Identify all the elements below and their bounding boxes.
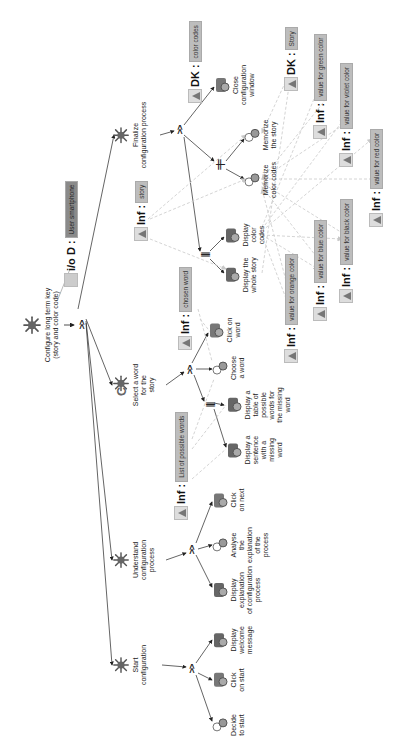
information-icon — [339, 289, 353, 303]
interactive-output-task-icon — [226, 396, 242, 414]
interactive-input-task-icon — [212, 491, 228, 509]
task-display-welcome[interactable]: Display welcome message — [212, 626, 254, 654]
root-operator-enable: >> — [77, 321, 87, 330]
operator-concurrent: ||| — [205, 403, 215, 408]
device-user-smartphone[interactable]: i/o D : User smartphone — [64, 181, 78, 287]
task-memorize-color-codes[interactable]: Memorize color codes — [244, 162, 278, 198]
task-model-diagram: Configure long term key (story and color… — [0, 0, 402, 739]
cognitive-decision-task-icon — [212, 361, 228, 375]
task-click-on-start[interactable]: Click on start — [212, 668, 246, 691]
task-display-color-codes[interactable]: Display color codes — [224, 224, 266, 247]
information-icon — [174, 506, 188, 520]
cognitive-task-icon — [212, 718, 228, 732]
info-value-orange-color[interactable]: Inf : value for orange color — [284, 254, 298, 363]
cognitive-memorize-task-icon — [244, 173, 260, 187]
abstract-task-icon — [112, 551, 130, 569]
interactive-input-task-icon — [214, 76, 230, 94]
root-task-label: Configure long term key (story and color… — [44, 288, 60, 362]
operator-enable: >> — [185, 366, 195, 375]
info-value-blue-color[interactable]: Inf : value for blue color — [313, 220, 327, 321]
information-icon — [178, 336, 192, 350]
task-decide-to-start[interactable]: Decide to start — [212, 714, 246, 736]
abstract-task-icon — [112, 656, 130, 674]
task-click-on-next[interactable]: Click on next — [212, 489, 246, 512]
task-display-whole-story[interactable]: Display the whole story — [224, 257, 258, 292]
task-finalize-configuration[interactable]: Finalize configuration process — [112, 102, 148, 169]
declarative-knowledge-story[interactable]: DK : Story — [284, 27, 298, 91]
info-value-black-color[interactable]: Inf : value for black color — [339, 199, 353, 303]
abstract-task-icon — [22, 315, 42, 335]
information-icon — [134, 227, 148, 241]
task-display-sentence[interactable]: Display a sentence with a missing word — [226, 436, 284, 465]
interactive-input-task-icon — [208, 321, 224, 339]
info-story[interactable]: Inf : story — [134, 181, 148, 241]
information-icon — [313, 125, 327, 139]
info-chosen-word[interactable]: Inf : chosen word — [178, 267, 192, 350]
task-display-table[interactable]: Display a table of possible words for th… — [226, 387, 292, 422]
interactive-output-task-icon — [212, 581, 228, 599]
operator-concurrent: ||| — [200, 253, 210, 258]
abstract-task-icon — [112, 126, 130, 144]
information-icon — [369, 213, 383, 227]
task-close-configuration-window[interactable]: Close configuration window — [214, 65, 256, 105]
task-understand-configuration[interactable]: Understand configuration process — [112, 540, 156, 580]
cognitive-memorize-task-icon — [244, 128, 260, 142]
svg-text:C: C — [115, 387, 129, 396]
operator-order-independence: =|= — [215, 160, 225, 170]
interactive-output-task-icon — [224, 226, 240, 244]
information-icon — [339, 153, 353, 167]
task-click-on-word[interactable]: Click on word — [208, 318, 242, 343]
interactive-output-task-icon — [224, 266, 240, 284]
declarative-knowledge-color-codes[interactable]: DK : color codes — [188, 21, 202, 103]
device-icon — [64, 273, 78, 287]
info-value-red-color[interactable]: Inf : value for red color — [369, 129, 383, 227]
task-memorize-story[interactable]: Memorize the story — [244, 120, 278, 151]
task-analyse-explanation[interactable]: Analyse the explanation of the process — [212, 527, 270, 563]
task-select-word[interactable]: C Select a word for the story — [112, 364, 156, 406]
task-choose-word[interactable]: Choose a word — [212, 356, 246, 380]
operator-enable: >> — [187, 546, 197, 555]
info-list-of-possible-words[interactable]: Inf : List of possible words — [174, 412, 188, 520]
abstract-task-icon: C — [112, 374, 130, 396]
knowledge-icon — [284, 77, 298, 91]
interactive-output-task-icon — [226, 441, 242, 459]
root-task-configure-key[interactable]: Configure long term key (story and color… — [22, 288, 60, 362]
info-value-violet-color[interactable]: Inf : value for violet color — [339, 63, 353, 167]
info-value-green-color[interactable]: Inf : value for green color — [313, 34, 327, 139]
task-start-configuration[interactable]: Start configuration — [112, 645, 148, 685]
task-display-explanation[interactable]: Display explanation of configuration pro… — [212, 566, 262, 614]
cognitive-analysis-task-icon — [212, 538, 228, 552]
information-icon — [284, 349, 298, 363]
interactive-output-task-icon — [212, 631, 228, 649]
information-icon — [313, 307, 327, 321]
operator-enable: >> — [175, 126, 185, 135]
interactive-input-task-icon — [212, 671, 228, 689]
knowledge-icon — [188, 89, 202, 103]
operator-enable: >> — [187, 665, 197, 674]
